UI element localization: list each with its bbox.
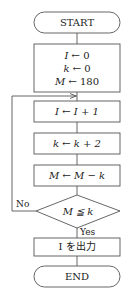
no-branch-label: No [16,199,38,210]
step-label-increment-k: k ← k + 2 [34,138,120,149]
var-name: M [55,76,65,87]
assign-arrow: ← [72,50,80,61]
assign-arrow: ← [73,63,81,74]
init-line-i: I ← 0 [34,50,120,61]
end-label: END [34,271,120,282]
init-line-m: M ← 180 [34,76,120,87]
expr: I + 1 [74,106,99,117]
yes-branch-label: Yes [80,227,104,238]
init-line-k: k ← 0 [34,63,120,74]
var-name: I [55,106,59,117]
var-name: I [64,50,68,61]
decision-condition: M ≦ k [36,206,120,217]
expr: 180 [80,76,99,87]
assign-arrow: ← [62,106,70,117]
expr: 0 [83,50,89,61]
assign-arrow: ← [68,76,76,87]
assign-arrow: ← [62,170,70,181]
expr: M − k [74,170,105,181]
step-label-decrement-m: M ← M − k [34,170,120,181]
flowchart-canvas [0,0,130,305]
assign-arrow: ← [62,138,70,149]
var-name: k [63,63,69,74]
output-label: I を出力 [34,241,120,252]
start-label: START [34,17,120,28]
var-name: M [49,170,59,181]
step-label-increment-i: I ← I + 1 [34,106,120,117]
expr: k + 2 [74,138,101,149]
var-name: k [53,138,59,149]
expr: 0 [84,63,90,74]
